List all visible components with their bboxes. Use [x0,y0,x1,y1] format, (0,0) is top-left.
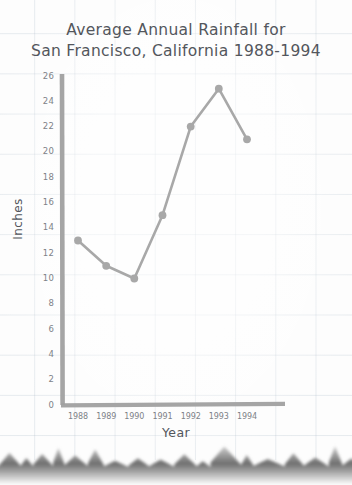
y-axis-line [62,74,63,405]
y-axis-tick-label: 22 [28,121,54,131]
torn-paper-edge [0,438,352,485]
y-axis-tick-label: 24 [28,96,54,106]
y-axis-tick-label: 14 [28,222,54,232]
x-axis-tick-label: 1989 [91,412,121,421]
y-axis-tick-label: 8 [28,298,54,308]
y-axis-tick-label: 0 [28,400,54,410]
x-axis-tick-label: 1988 [63,412,93,421]
x-axis-line [61,404,285,406]
y-axis-tick-label: 26 [28,71,54,81]
plot-area: 02468101214161820222426 1988198919901991… [0,0,352,460]
data-point-marker[interactable] [102,262,110,270]
x-axis-tick-label: 1994 [232,412,262,421]
data-point-marker[interactable] [187,123,195,131]
data-point-marker[interactable] [159,211,167,219]
y-axis-tick-label: 12 [28,248,54,258]
axes-group [61,74,285,405]
y-axis-tick-label: 6 [28,324,54,334]
data-point-marker[interactable] [243,135,251,143]
x-axis-tick-label: 1992 [176,412,206,421]
data-point-marker[interactable] [215,85,223,93]
y-axis-tick-label: 16 [28,197,54,207]
data-point-marker[interactable] [74,237,82,245]
x-axis-tick-label: 1990 [119,412,149,421]
y-axis-tick-label: 4 [28,349,54,359]
x-axis-tick-label: 1993 [204,412,234,421]
x-axis-tick-label: 1991 [148,412,178,421]
rainfall-line-series [74,85,251,283]
y-axis-tick-label: 18 [28,172,54,182]
y-axis-tick-label: 2 [28,374,54,384]
chart-page: Average Annual Rainfall for San Francisc… [0,0,352,485]
y-axis-tick-label: 10 [28,273,54,283]
rainfall-line [78,89,247,279]
y-axis-title: Inches [11,189,25,249]
y-axis-tick-label: 20 [28,146,54,156]
data-point-marker[interactable] [130,275,138,283]
